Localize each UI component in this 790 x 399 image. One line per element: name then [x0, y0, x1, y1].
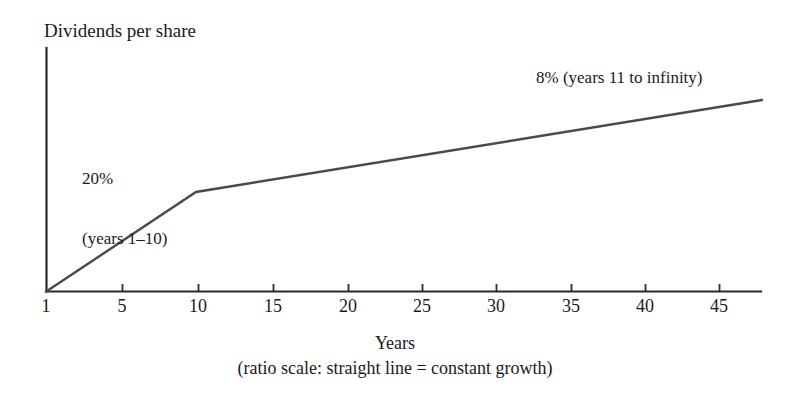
dividend-growth-chart: Dividends per share 20% (years 1–10) 8% … — [0, 0, 790, 399]
x-tick-label-20: 20 — [339, 296, 357, 317]
x-tick-label-10: 10 — [189, 296, 207, 317]
x-tick-label-40: 40 — [636, 296, 654, 317]
x-tick-label-25: 25 — [413, 296, 431, 317]
annotation-early-growth: 20% (years 1–10) — [82, 129, 167, 289]
x-tick-label-1: 1 — [42, 296, 51, 317]
annotation-late-growth: 8% (years 11 to infinity) — [536, 68, 703, 88]
x-tick-label-15: 15 — [264, 296, 282, 317]
x-axis-subtitle: (ratio scale: straight line = constant g… — [237, 358, 552, 379]
x-axis-ticks — [123, 284, 720, 291]
annotation-early-period: (years 1–10) — [82, 229, 167, 249]
y-axis-title: Dividends per share — [44, 20, 196, 42]
annotation-early-rate: 20% — [82, 169, 167, 189]
x-tick-label-35: 35 — [562, 296, 580, 317]
x-axis-title: Years — [375, 333, 415, 354]
x-tick-label-45: 45 — [710, 296, 728, 317]
x-tick-label-5: 5 — [118, 296, 127, 317]
x-tick-label-30: 30 — [487, 296, 505, 317]
